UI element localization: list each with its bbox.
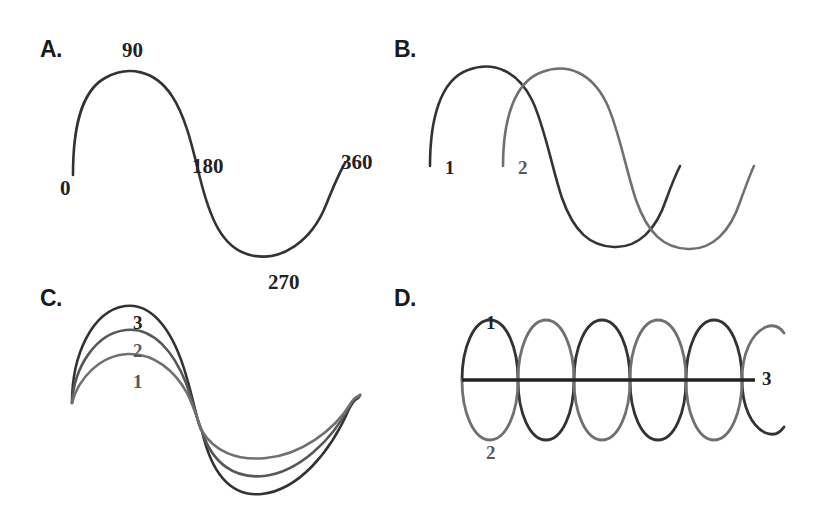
panel-d-label-2: 2 [486,443,496,462]
panel-a: A. 0 90 180 270 360 [0,0,410,280]
panel-c-wave-1-curve [72,354,360,459]
panel-b: B. 1 2 [390,0,819,280]
panel-b-wave-2-curve [503,69,754,250]
panel-a-label-0: 0 [60,178,71,199]
panel-c-label-3: 3 [133,313,143,332]
panel-b-label-1: 1 [445,158,455,177]
panel-c-label-2: 2 [133,341,143,360]
panel-d-label-1: 1 [486,313,496,332]
panel-c-wave-svg [0,275,410,524]
panel-d: D. 1 2 3 [390,275,819,524]
panel-d-label-3: 3 [762,369,772,388]
panel-c-wave-3-curve [72,306,360,495]
panel-b-label-2: 2 [518,158,528,177]
panel-a-wave-svg [0,0,410,280]
panel-b-wave-svg [390,0,819,280]
wave-figure: A. 0 90 180 270 360 B. 1 2 C. [0,0,819,524]
panel-a-label-180: 180 [192,156,224,177]
panel-d-wave-svg [390,275,819,524]
panel-b-wave-1-curve [430,67,680,248]
panel-c: C. 3 2 1 [0,275,410,524]
panel-c-wave-2-curve [72,330,360,477]
panel-c-label-1: 1 [133,372,143,391]
panel-a-label-90: 90 [122,40,143,61]
panel-a-label-360: 360 [341,152,373,173]
